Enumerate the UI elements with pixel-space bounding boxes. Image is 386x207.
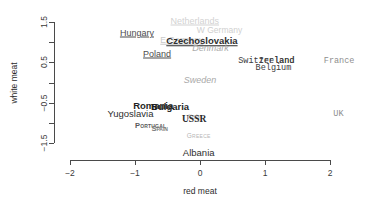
y-tick-label: 0.5 <box>39 56 49 68</box>
data-point-label: Poland <box>143 50 171 59</box>
data-point-label: USSR <box>182 116 206 126</box>
y-tick-minor <box>49 42 54 43</box>
y-tick-minor <box>49 123 54 124</box>
x-tick-label: 0 <box>198 168 203 178</box>
y-tick-label: −1.5 <box>39 135 49 152</box>
y-tick <box>49 103 54 104</box>
y-tick <box>49 22 54 23</box>
x-axis-title: red meat <box>183 186 217 196</box>
y-axis-title: white meat <box>9 62 19 103</box>
x-tick-label: 2 <box>328 168 333 178</box>
x-tick-label: 1 <box>263 168 268 178</box>
data-point-label: Spain <box>151 125 168 133</box>
y-tick-minor <box>49 83 54 84</box>
data-point-label: Albania <box>183 149 215 159</box>
data-point-label: Denmark <box>192 44 229 53</box>
data-point-label: Yugoslavia <box>107 109 153 119</box>
data-point-label: W Germany <box>197 26 242 35</box>
x-tick <box>265 160 266 165</box>
x-tick <box>200 160 201 165</box>
x-tick <box>135 160 136 165</box>
data-point-label: Bulgaria <box>151 102 189 112</box>
y-axis-line <box>54 22 55 143</box>
data-point-label: Greece <box>187 133 211 140</box>
data-point-label: France <box>324 56 355 65</box>
y-tick-label: 1.5 <box>39 16 49 28</box>
data-point-label: Belgium <box>256 63 292 72</box>
scatter-plot: −2−10121.50.5−0.5−1.5 NetherlandsW Germa… <box>0 0 386 207</box>
data-point-label: UK <box>333 110 343 119</box>
y-tick <box>49 62 54 63</box>
y-tick-label: −0.5 <box>39 94 49 111</box>
x-tick-label: −2 <box>65 168 75 178</box>
x-tick-label: −1 <box>130 168 140 178</box>
data-point-label: Sweden <box>184 76 217 85</box>
y-tick <box>49 143 54 144</box>
x-tick <box>330 160 331 165</box>
x-tick <box>70 160 71 165</box>
data-point-label: Hungary <box>120 28 154 37</box>
